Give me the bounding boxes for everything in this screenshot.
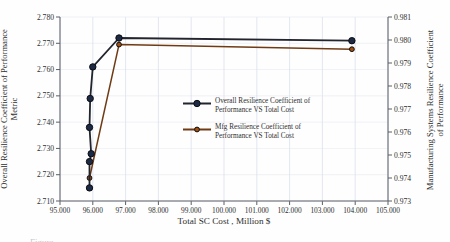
series-marker-0 [90,64,96,70]
x-tick-label: 96.000 [83,206,104,215]
series-marker-0 [86,124,92,130]
left-axis-title: Overall Resilience Coefficient of Perfor… [0,0,22,224]
series-marker-0 [349,38,355,44]
y-left-tick-label: 2.730 [37,144,54,153]
series-marker-0 [86,185,92,191]
legend: Overall Resilience Coefficient of Perfor… [182,97,339,141]
x-tick-label: 99.000 [181,206,202,215]
x-tick-label: 97.000 [115,206,136,215]
series-marker-1 [117,42,122,47]
chart-figure: 95.00096.00097.00098.00099.000100.000101… [0,0,450,242]
y-left-tick-label: 2.770 [37,39,54,48]
caption-fragment: Figure [30,237,170,242]
series-marker-0 [86,158,92,164]
y-right-tick-label: 0.975 [394,151,411,160]
y-right-tick-label: 0.980 [394,36,411,45]
legend-marker-mfg-icon [182,125,212,134]
y-right-tick-label: 0.977 [394,105,411,114]
y-right-tick-label: 0.978 [394,82,411,91]
y-left-tick-label: 2.710 [37,197,54,206]
series-marker-0 [87,95,93,101]
y-right-tick-label: 0.973 [394,197,411,206]
legend-dot [195,127,200,132]
x-tick-label: 101.000 [245,206,269,215]
right-axis-title-line2: of Performance [436,0,446,225]
legend-label-mfg: Mfg Resilience Coefficient of Performanc… [215,123,339,142]
series-marker-1 [350,47,355,52]
y-left-tick-label: 2.740 [37,118,54,127]
legend-marker-overall-icon [182,99,212,108]
series-marker-0 [88,151,94,157]
left-axis-title-line2: Metric [10,0,20,224]
x-tick-label: 100.000 [212,206,236,215]
y-right-tick-label: 0.974 [394,174,411,183]
right-axis-title: Manufacturing Systems Resilience Coeffic… [426,0,448,225]
y-left-tick-label: 2.780 [37,13,54,22]
x-tick-label: 102.000 [278,206,302,215]
legend-entry-overall: Overall Resilience Coefficient of Perfor… [182,97,339,116]
legend-label-overall: Overall Resilience Coefficient of Perfor… [215,97,339,116]
x-tick-label: 104.000 [343,206,367,215]
y-left-tick-label: 2.720 [37,170,54,179]
y-right-tick-label: 0.976 [394,128,411,137]
x-axis-title: Total SC Cost , Million $ [60,216,388,226]
legend-entry-mfg: Mfg Resilience Coefficient of Performanc… [182,123,339,142]
y-right-tick-label: 0.981 [394,13,411,22]
x-tick-label: 103.000 [310,206,334,215]
y-left-tick-label: 2.760 [37,65,54,74]
series-marker-0 [116,35,122,41]
y-right-tick-label: 0.979 [394,59,411,68]
legend-dot [194,100,200,106]
x-tick-label: 95.000 [50,206,71,215]
x-tick-label: 105.000 [376,206,400,215]
y-left-tick-label: 2.750 [37,91,54,100]
x-tick-label: 98.000 [148,206,169,215]
